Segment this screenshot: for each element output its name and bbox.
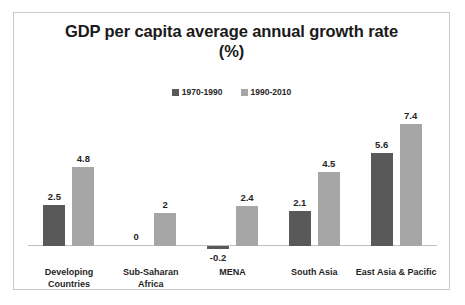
chart-title-line-2: (%) <box>14 41 449 61</box>
bar-value-label: 0 <box>134 231 139 242</box>
bar-value-label: 2.5 <box>48 191 61 202</box>
bar-slot: 2 <box>154 101 176 246</box>
category-label-developing-countries: Developing Countries <box>28 249 110 289</box>
bar-1990-2010[interactable] <box>400 124 422 246</box>
bar-1970-1990[interactable] <box>43 205 65 246</box>
bar-1970-1990[interactable] <box>289 211 311 246</box>
chart-legend: 1970-1990 1990-2010 <box>14 87 449 97</box>
category-label-mena: MENA <box>192 249 274 289</box>
category-label-south-asia: South Asia <box>273 249 355 289</box>
bar-group: 0 2 <box>110 101 192 246</box>
category-label-line: MENA <box>192 267 274 279</box>
category-label-line: Countries <box>28 279 110 291</box>
bar-slot: 7.4 <box>400 101 422 246</box>
bar-group: 2.1 4.5 <box>273 101 355 246</box>
legend-swatch-icon <box>172 89 179 96</box>
bar-1990-2010[interactable] <box>154 213 176 246</box>
legend-item-1990-2010[interactable]: 1990-2010 <box>241 87 292 97</box>
chart-title: GDP per capita average annual growth rat… <box>14 21 449 61</box>
bar-slot: -0.2 <box>207 101 229 246</box>
bar-value-label: 2.4 <box>240 192 253 203</box>
bar-1990-2010[interactable] <box>236 206 258 246</box>
chart-title-line-1: GDP per capita average annual growth rat… <box>14 21 449 41</box>
bar-value-label: 2 <box>163 199 168 210</box>
category-label-line: Sub-Saharan Africa <box>110 267 192 290</box>
bar-slot: 4.8 <box>72 101 94 246</box>
category-label-east-asia-pacific: East Asia & Pacific <box>355 249 437 289</box>
legend-item-1970-1990[interactable]: 1970-1990 <box>172 87 223 97</box>
bar-slot: 4.5 <box>318 101 340 246</box>
bar-group: 5.6 7.4 <box>355 101 437 246</box>
bar-value-label: 5.6 <box>375 139 388 150</box>
legend-swatch-icon <box>241 89 248 96</box>
bar-1990-2010[interactable] <box>318 172 340 246</box>
category-label-line: East Asia & Pacific <box>355 267 437 279</box>
bar-slot: 2.5 <box>43 101 65 246</box>
chart-frame: GDP per capita average annual growth rat… <box>13 12 450 290</box>
bar-slot: 2.1 <box>289 101 311 246</box>
bar-1970-1990[interactable] <box>371 153 393 246</box>
category-label-line: South Asia <box>273 267 355 279</box>
bar-value-label: 2.1 <box>293 197 306 208</box>
legend-label: 1990-2010 <box>251 87 292 97</box>
category-label-line: Developing <box>28 267 110 279</box>
bar-slot: 5.6 <box>371 101 393 246</box>
bar-value-label: 7.4 <box>404 110 417 121</box>
plot-area: 2.5 4.8 0 2 <box>28 101 437 246</box>
bar-slot: 2.4 <box>236 101 258 246</box>
bar-group: 2.5 4.8 <box>28 101 110 246</box>
category-label-sub-saharan-africa: Sub-Saharan Africa <box>110 249 192 289</box>
bar-slot: 0 <box>125 101 147 246</box>
bar-value-label: 4.5 <box>322 158 335 169</box>
category-axis: Developing Countries Sub-Saharan Africa … <box>28 249 437 289</box>
legend-label: 1970-1990 <box>182 87 223 97</box>
bar-1990-2010[interactable] <box>72 167 94 246</box>
bar-value-label: 4.8 <box>77 153 90 164</box>
bar-group: -0.2 2.4 <box>192 101 274 246</box>
